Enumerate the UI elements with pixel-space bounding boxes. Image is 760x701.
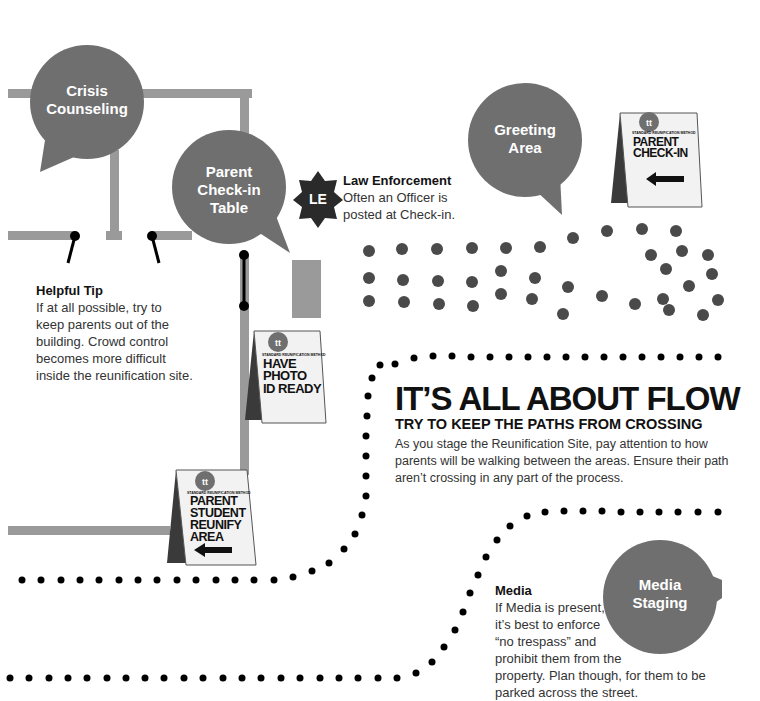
flow-section: IT’S ALL ABOUT FLOW TRY TO KEEP THE PATH…: [395, 384, 760, 487]
helpful-tip-note: Helpful Tip If at all possible, try to k…: [36, 282, 236, 384]
sign-check-in-text: PARENT CHECK-IN: [633, 137, 688, 160]
crisis-counseling-bubble: Crisis Counseling: [30, 82, 144, 118]
flow-subheadline: TRY TO KEEP THE PATHS FROM CROSSING: [395, 415, 760, 433]
crisis-label-line2: Counseling: [30, 100, 144, 118]
media-note-body: If Media is present, it’s best to enforc…: [495, 599, 735, 701]
flow-body: As you stage the Reunification Site, pay…: [395, 436, 760, 487]
flow-headline: IT’S ALL ABOUT FLOW: [395, 384, 760, 414]
media-note: Media If Media is present, it’s best to …: [495, 582, 735, 701]
parent-check-in-bubble: Parent Check-in Table: [172, 163, 286, 217]
check-in-label-line3: Table: [172, 199, 286, 217]
law-enforcement-badge: LE: [299, 191, 337, 207]
sign-reunify-text: PARENT STUDENT REUNIFY AREA: [190, 496, 246, 544]
greeting-area-bubble: Greeting Area: [468, 121, 582, 157]
helpful-tip-body: If at all possible, try to keep parents …: [36, 299, 236, 384]
svg-text:tt: tt: [275, 338, 281, 348]
svg-text:tt: tt: [646, 118, 652, 128]
svg-text:tt: tt: [202, 477, 208, 487]
sign-photo-id-text: HAVE PHOTO ID READY: [263, 358, 321, 395]
law-enforcement-note: Law Enforcement Often an Officer is post…: [343, 172, 483, 223]
parent-crowd-dots: [363, 223, 724, 321]
crisis-label-line1: Crisis: [30, 82, 144, 100]
helpful-tip-title: Helpful Tip: [36, 282, 236, 299]
check-in-table: [292, 260, 321, 318]
law-enforcement-title: Law Enforcement: [343, 172, 483, 189]
greeting-label-line1: Greeting: [468, 121, 582, 139]
media-note-title: Media: [495, 582, 735, 599]
check-in-label-line1: Parent: [172, 163, 286, 181]
greeting-label-line2: Area: [468, 139, 582, 157]
check-in-label-line2: Check-in: [172, 181, 286, 199]
law-enforcement-body: Often an Officer is posted at Check-in.: [343, 189, 483, 223]
